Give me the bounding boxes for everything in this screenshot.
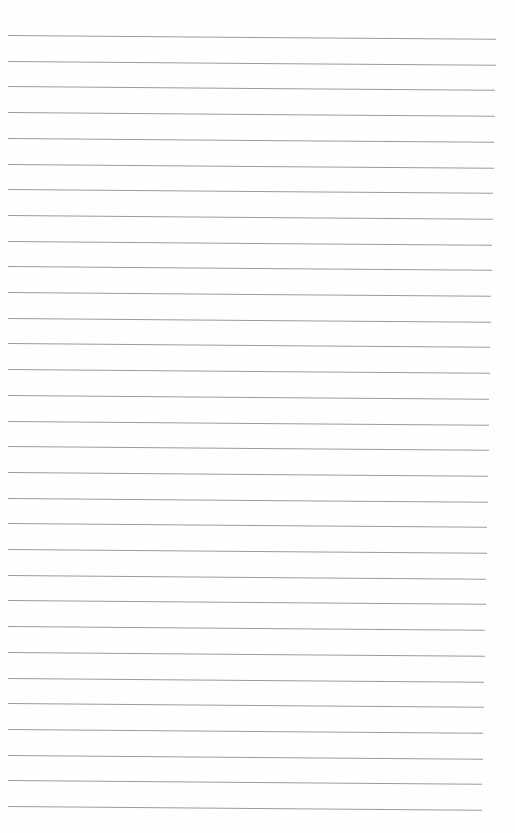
- ruled-line: [8, 86, 495, 91]
- ruled-line: [8, 421, 489, 426]
- ruled-line: [8, 600, 486, 605]
- ruled-line: [8, 549, 487, 554]
- ruled-line: [8, 523, 487, 528]
- ruled-line: [8, 652, 485, 657]
- ruled-line: [8, 626, 485, 631]
- ruled-line: [8, 164, 494, 169]
- ruled-line: [8, 318, 491, 323]
- ruled-line: [8, 678, 484, 683]
- ruled-line: [8, 498, 488, 503]
- ruled-line: [8, 112, 495, 117]
- ruled-line: [8, 215, 493, 220]
- ruled-line: [8, 35, 496, 40]
- ruled-line: [8, 703, 484, 708]
- ruled-line: [8, 395, 489, 400]
- ruled-line: [8, 138, 494, 143]
- ruled-line: [8, 189, 493, 194]
- lined-paper-page: [0, 0, 515, 833]
- ruled-line: [8, 575, 486, 580]
- ruled-line: [8, 729, 483, 734]
- ruled-line: [8, 266, 492, 271]
- ruled-line: [8, 755, 483, 760]
- ruled-line: [8, 61, 496, 66]
- ruled-line: [8, 780, 482, 785]
- ruled-line: [8, 241, 492, 246]
- ruled-line: [8, 806, 482, 811]
- ruled-line: [8, 472, 488, 477]
- ruled-line: [8, 292, 491, 297]
- ruled-line: [8, 369, 490, 374]
- ruled-line: [8, 446, 489, 451]
- ruled-line: [8, 343, 490, 348]
